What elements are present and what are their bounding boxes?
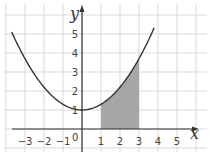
grid bbox=[4, 4, 207, 152]
axes bbox=[12, 5, 199, 152]
origin-label: 0 bbox=[72, 132, 78, 143]
graph: −3−2−11234512345 x y 0 bbox=[0, 0, 211, 155]
svg-text:4: 4 bbox=[72, 48, 78, 59]
svg-text:1: 1 bbox=[72, 105, 78, 116]
svg-text:2: 2 bbox=[72, 86, 78, 97]
svg-text:−2: −2 bbox=[37, 136, 52, 147]
svg-text:3: 3 bbox=[72, 67, 78, 78]
svg-text:3: 3 bbox=[136, 136, 142, 147]
svg-text:1: 1 bbox=[98, 136, 104, 147]
svg-text:4: 4 bbox=[155, 136, 161, 147]
svg-text:5: 5 bbox=[72, 29, 78, 40]
svg-text:5: 5 bbox=[174, 136, 180, 147]
svg-text:−1: −1 bbox=[56, 136, 71, 147]
svg-text:−3: −3 bbox=[18, 136, 33, 147]
svg-text:2: 2 bbox=[117, 136, 123, 147]
y-axis-label: y bbox=[69, 4, 80, 23]
x-axis-label: x bbox=[190, 124, 199, 143]
